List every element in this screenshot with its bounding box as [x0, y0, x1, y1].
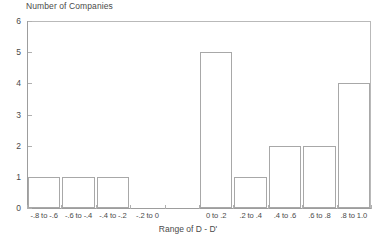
y-tick-label: 0 [3, 203, 21, 213]
x-tick-label: .4 to .6 [274, 211, 296, 220]
x-axis-title: Range of D - D' [0, 224, 376, 234]
chart-container: Number of Companies 0123456 -.8 to -.6-.… [0, 0, 376, 244]
x-tick [371, 205, 372, 209]
bar [62, 177, 94, 208]
x-tick-label: -.2 to 0 [136, 211, 159, 220]
bar [28, 177, 60, 208]
y-tick-2 [28, 146, 32, 147]
x-tick-label: .8 to 1.0 [341, 211, 368, 220]
chart-title: Number of Companies [26, 1, 113, 11]
y-tick-6 [28, 21, 32, 22]
y-tick-3 [28, 115, 32, 116]
x-tick-label: -.4 to -.2 [99, 211, 126, 220]
y-tick-5 [28, 52, 32, 53]
y-tick-label: 5 [3, 47, 21, 57]
x-tick-label: .2 to .4 [239, 211, 261, 220]
bar [234, 177, 266, 208]
x-tick-label: -.6 to -.4 [65, 211, 92, 220]
y-tick-label: 6 [3, 16, 21, 26]
y-tick-0 [28, 208, 32, 209]
bar [338, 83, 370, 208]
bar [97, 177, 129, 208]
bar [269, 146, 301, 208]
y-tick-label: 1 [3, 172, 21, 182]
x-tick-label: -.8 to -.6 [31, 211, 58, 220]
x-tick-label: 0 to .2 [206, 211, 226, 220]
plot-frame-right [370, 21, 371, 209]
y-tick-4 [28, 83, 32, 84]
y-tick-label: 3 [3, 110, 21, 120]
x-tick [165, 205, 166, 209]
y-tick-label: 4 [3, 78, 21, 88]
bar [200, 52, 232, 208]
y-tick-label: 2 [3, 141, 21, 151]
bar [303, 146, 335, 208]
x-tick [130, 205, 131, 209]
x-tick-label: .6 to .8 [308, 211, 330, 220]
plot-frame-top [27, 21, 371, 22]
